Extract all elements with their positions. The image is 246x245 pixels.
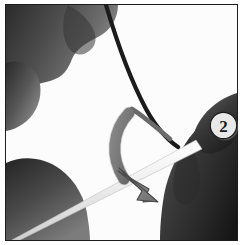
photo-frame: Grayscale photo: left hand holds a thin … bbox=[5, 4, 238, 241]
photograph: Grayscale photo: left hand holds a thin … bbox=[6, 5, 237, 240]
figure-container: Grayscale photo: left hand holds a thin … bbox=[0, 0, 246, 245]
step-badge: 2 bbox=[208, 110, 240, 142]
step-badge-label: 2 bbox=[219, 117, 228, 136]
